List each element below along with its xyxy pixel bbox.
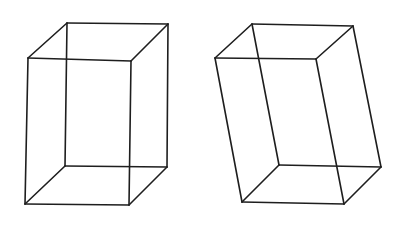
cube-edge: [167, 24, 168, 167]
slanted-wireframe-box: [215, 24, 381, 204]
upright-wireframe-box: [25, 23, 168, 205]
cube-edge: [131, 24, 168, 61]
cube-edge: [28, 58, 131, 61]
cube-edge: [25, 166, 65, 204]
cube-edge: [353, 26, 381, 167]
cube-edge: [242, 165, 279, 202]
cube-edge: [25, 58, 28, 204]
cube-edge: [129, 61, 131, 205]
cube-edge: [65, 166, 167, 167]
cube-edge: [252, 24, 279, 165]
cube-edge: [316, 59, 344, 204]
cube-edge: [215, 24, 252, 58]
wireframe-boxes-figure: [0, 0, 407, 226]
cube-edge: [28, 23, 67, 58]
cube-edge: [252, 24, 353, 26]
cube-edge: [129, 167, 167, 205]
cube-edge: [67, 23, 168, 24]
cube-edge: [215, 58, 316, 59]
cube-edge: [279, 165, 381, 167]
cube-edge: [65, 23, 67, 166]
cube-edge: [25, 204, 129, 205]
cube-edge: [242, 202, 344, 204]
cube-edge: [215, 58, 242, 202]
cube-edge: [344, 167, 381, 204]
cube-edge: [316, 26, 353, 59]
